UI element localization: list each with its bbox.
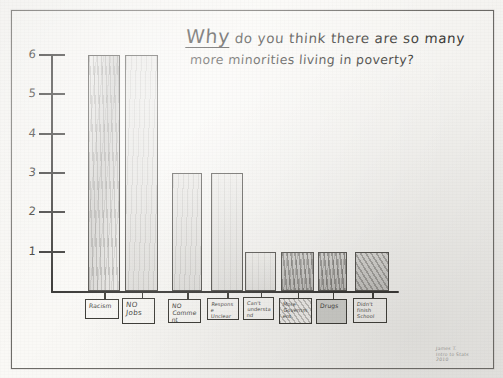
y-tick-label: 6 <box>22 49 37 60</box>
x-axis-label-box: Didn'tfinishSchool <box>353 298 387 323</box>
title-line2: more minorities living in poverty? <box>189 49 461 70</box>
title-first-word: Why <box>185 25 230 48</box>
label-leader-line <box>333 292 335 299</box>
y-tick-label: 2 <box>22 206 37 217</box>
x-axis-label-box: NOComment <box>168 299 201 323</box>
x-axis-label-line-3: Question <box>247 319 272 320</box>
x-axis-label-line-1: Response <box>210 301 236 313</box>
bar <box>281 252 314 291</box>
bar <box>355 252 389 291</box>
bar-fill <box>89 56 119 290</box>
y-tick-label: 3 <box>22 167 37 178</box>
bar <box>211 173 243 291</box>
bar-fill <box>246 253 275 290</box>
x-axis-label-line-2: understand <box>246 306 271 318</box>
x-axis-label-box: Racism <box>85 299 119 319</box>
bar <box>318 252 347 291</box>
x-axis-label-line-1: Racism <box>89 302 117 309</box>
photograph-of-drawing: Why do you think there are so many more … <box>0 0 503 378</box>
bar-fill <box>282 253 313 290</box>
x-axis-label-box: Drugs <box>316 299 347 324</box>
bar-fill <box>319 253 346 290</box>
x-axis-label-box: ResponseUnclear <box>207 298 239 320</box>
bar <box>88 55 120 291</box>
y-tick-label: 1 <box>22 246 37 257</box>
x-axis-label-box: Can'tunderstandQuestion <box>243 297 274 320</box>
title-line1-rest: do you think there are so many <box>234 30 465 46</box>
y-tick-label: 5 <box>22 88 37 99</box>
x-axis-label-line-2: Jobs <box>126 309 153 317</box>
bar-fill <box>173 174 201 290</box>
label-leader-line <box>104 292 106 299</box>
signature-line-3: 2010 <box>436 357 489 363</box>
x-axis-label-box: MoreGovernment <box>279 298 312 324</box>
x-axis-label-line-2: Comment <box>171 309 199 323</box>
chart-title: Why do you think there are so many more … <box>186 26 461 70</box>
x-axis-label-line-2: Unclear <box>211 313 237 319</box>
x-axis-label-line-2: Government <box>282 307 309 319</box>
bar <box>172 173 202 291</box>
plot-area <box>53 53 399 291</box>
bar-fill <box>356 253 388 290</box>
signature-block: James T. Intro to Stats 2010 <box>436 346 488 363</box>
x-axis-label-box: NOJobs <box>122 298 155 324</box>
hand-drawn-bar-chart: Why do you think there are so many more … <box>0 0 503 378</box>
signature-line-1: James T. <box>436 346 489 352</box>
bar <box>245 252 276 291</box>
label-leader-line <box>187 292 189 299</box>
bar-fill <box>126 56 157 290</box>
bar <box>125 55 158 291</box>
bar-fill <box>212 174 242 290</box>
x-axis-label-line-1: Drugs <box>320 302 345 309</box>
x-axis-label-line-3: School <box>357 313 385 319</box>
y-tick-label: 4 <box>22 128 37 139</box>
